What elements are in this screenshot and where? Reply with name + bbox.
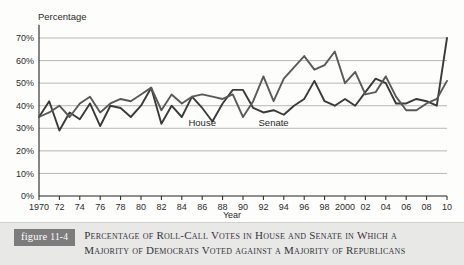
figure-tag-word: figure	[21, 231, 47, 242]
svg-text:10%: 10%	[16, 169, 34, 179]
svg-text:30%: 30%	[16, 123, 34, 133]
figure-tag-number: 11-4	[50, 232, 68, 242]
y-axis-tick-labels: 0%10%20%30%40%50%60%70%	[16, 33, 34, 201]
svg-text:86: 86	[197, 202, 207, 212]
svg-text:80: 80	[136, 202, 146, 212]
svg-text:House: House	[188, 117, 215, 128]
svg-text:72: 72	[54, 202, 64, 212]
svg-text:78: 78	[116, 202, 126, 212]
svg-text:98: 98	[320, 202, 330, 212]
svg-text:1970: 1970	[29, 202, 49, 212]
svg-text:Senate: Senate	[259, 117, 289, 128]
line-chart: 0%10%20%30%40%50%60%70% 1970727476788082…	[0, 0, 464, 222]
y-axis-title: Percentage	[38, 11, 87, 22]
svg-text:84: 84	[177, 202, 187, 212]
figure-caption-text: Percentage of Roll-Call Votes in House a…	[84, 228, 405, 257]
caption-line-1: Percentage of Roll-Call Votes in House a…	[84, 228, 405, 243]
caption-inner: figure11-4 Percentage of Roll-Call Votes…	[14, 228, 405, 257]
series-inline-labels: HouseSenate	[188, 117, 288, 128]
svg-text:06: 06	[401, 202, 411, 212]
svg-text:0%: 0%	[21, 191, 34, 201]
svg-text:08: 08	[422, 202, 432, 212]
svg-text:02: 02	[360, 202, 370, 212]
svg-text:2000: 2000	[335, 202, 355, 212]
svg-text:76: 76	[95, 202, 105, 212]
caption-line-2: Majority of Democrats Voted against a Ma…	[84, 243, 405, 258]
data-series	[39, 38, 447, 131]
svg-text:70%: 70%	[16, 33, 34, 43]
figure-number-tag: figure11-4	[14, 229, 75, 246]
svg-text:10: 10	[442, 202, 452, 212]
svg-text:96: 96	[299, 202, 309, 212]
svg-text:20%: 20%	[16, 146, 34, 156]
svg-text:82: 82	[156, 202, 166, 212]
svg-text:94: 94	[279, 202, 289, 212]
x-axis-ticks	[39, 196, 447, 200]
figure-caption-band: figure11-4 Percentage of Roll-Call Votes…	[0, 222, 464, 265]
axis-lines	[39, 25, 447, 196]
svg-text:50%: 50%	[16, 78, 34, 88]
svg-text:40%: 40%	[16, 101, 34, 111]
svg-text:74: 74	[75, 202, 85, 212]
chart-area: 0%10%20%30%40%50%60%70% 1970727476788082…	[0, 0, 464, 222]
svg-text:04: 04	[381, 202, 391, 212]
x-axis-title: Year	[223, 210, 241, 220]
svg-text:60%: 60%	[16, 56, 34, 66]
svg-text:92: 92	[258, 202, 268, 212]
